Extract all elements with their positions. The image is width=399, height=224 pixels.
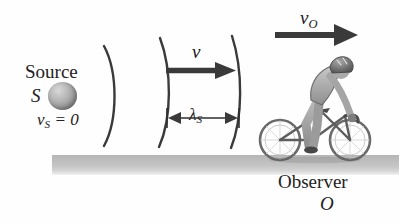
rider-arm [330,76,351,116]
wavelength-left-arrowhead [168,112,181,124]
wavefront-arc-1 [104,46,115,146]
wave-velocity-arrowhead [215,62,236,79]
wavelength-right-arrowhead [225,112,238,124]
doppler-effect-diagram: Source S vS = 0 v λS vO Observer O [0,0,399,224]
rider-helmet [330,57,353,73]
rider-leg-front [313,104,319,147]
diagram-vector-overlay [0,0,399,224]
cyclist-shadow [269,157,361,163]
wavefront-arc-2 [159,38,169,147]
observer-velocity-arrowhead [334,24,358,46]
wavefront-arc-3 [231,36,240,148]
cyclist-illustration [260,57,370,163]
